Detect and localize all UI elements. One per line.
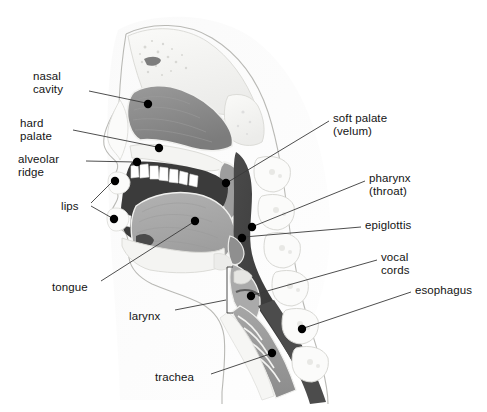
label-vocal-cords-line-2: cords: [381, 264, 425, 277]
vocal-tract-diagram: nasalcavityhardpalatealveolarridgelipsto…: [0, 0, 487, 412]
callout-dot-tongue: [191, 217, 199, 225]
label-vocal-cords: vocalcords: [381, 251, 425, 277]
label-nasal-cavity: nasalcavity: [33, 70, 93, 96]
callout-dot-lips-2: [110, 215, 118, 223]
callout-dot-hard-palate: [155, 144, 163, 152]
label-hard-palate: hardpalate: [20, 117, 82, 143]
label-trachea-line-1: trachea: [155, 371, 205, 384]
callout-dot-alveolar-ridge: [133, 158, 141, 166]
label-lips: lips: [61, 200, 87, 213]
callout-dot-epiglottis: [238, 234, 246, 242]
label-epiglottis: epiglottis: [365, 219, 425, 232]
callout-dot-nasal-cavity: [144, 100, 152, 108]
label-tongue-line-1: tongue: [52, 281, 98, 294]
callout-dot-pharynx-throat: [248, 223, 256, 231]
label-nasal-cavity-line-2: cavity: [33, 83, 93, 96]
label-vocal-cords-line-1: vocal: [381, 251, 425, 264]
label-alveolar-ridge-line-2: ridge: [18, 166, 84, 179]
callout-dot-vocal-cords: [247, 292, 255, 300]
label-soft-palate-velum-line-1: soft palate: [333, 112, 413, 125]
label-epiglottis-line-1: epiglottis: [365, 219, 425, 232]
label-esophagus-line-1: esophagus: [415, 284, 483, 297]
label-hard-palate-line-2: palate: [20, 130, 82, 143]
callout-dot-trachea: [268, 349, 276, 357]
label-pharynx-throat: pharynx(throat): [369, 172, 433, 198]
callout-dot-esophagus: [298, 325, 306, 333]
label-alveolar-ridge: alveolarridge: [18, 153, 84, 179]
label-nasal-cavity-line-1: nasal: [33, 70, 93, 83]
label-hard-palate-line-1: hard: [20, 117, 82, 130]
callout-dot-soft-palate-velum: [222, 179, 230, 187]
label-larynx: larynx: [129, 310, 171, 323]
label-soft-palate-velum-line-2: (velum): [333, 125, 413, 138]
label-pharynx-throat-line-2: (throat): [369, 185, 433, 198]
label-esophagus: esophagus: [415, 284, 483, 297]
label-pharynx-throat-line-1: pharynx: [369, 172, 433, 185]
label-alveolar-ridge-line-1: alveolar: [18, 153, 84, 166]
label-trachea: trachea: [155, 371, 205, 384]
label-larynx-line-1: larynx: [129, 310, 171, 323]
label-soft-palate-velum: soft palate(velum): [333, 112, 413, 138]
label-lips-line-1: lips: [61, 200, 87, 213]
label-tongue: tongue: [52, 281, 98, 294]
callout-dot-lips: [111, 177, 119, 185]
